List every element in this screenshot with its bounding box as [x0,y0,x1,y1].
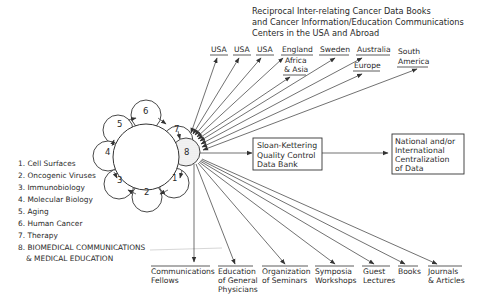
top-targets: USA USA USA England Africa & Asia Sweden… [210,45,429,75]
target-usa-2: USA [234,45,251,54]
petal-label-4: 4 [105,147,110,157]
title-line-1: Reciprocal Inter-relating Cancer Data Bo… [252,6,431,16]
legend-item-7: 7. Therapy [18,231,58,240]
bottom-targets: Communications Fellows Education of Gene… [151,266,465,294]
target-africa-asia-line-1: Africa [285,56,307,65]
target-usa-1: USA [211,45,228,54]
target-education-gp-line-1: Education [218,267,256,276]
target-south-america-line-2: America [398,57,429,66]
target-journals-line-1: Journals [427,267,458,276]
petal-label-5: 5 [117,119,122,129]
petal-label-3: 3 [117,175,122,185]
national-line-1: National and/or [395,137,456,146]
target-guest-lectures-line-1: Guest [363,267,385,276]
sloan-kettering-box: Sloan-Kettering Quality Control Data Ban… [253,138,322,170]
title-line-3: Centers in the USA and Abroad [252,28,379,38]
national-line-4: of Data [395,164,424,173]
legend-item-8-continued: & MEDICAL EDUCATION [26,254,113,263]
petal-label-8: 8 [184,147,189,157]
legend-item-8: 8. BIOMEDICAL COMMUNICATIONS [18,243,146,252]
target-australia: Australia [357,45,391,54]
national-centralization-box: National and/or International Centraliza… [392,134,464,174]
diagram-title: Reciprocal Inter-relating Cancer Data Bo… [252,6,464,38]
national-line-3: Centralization [395,155,449,164]
national-line-2: International [395,146,445,155]
petal-label-1: 1 [172,173,177,183]
target-europe: Europe [354,61,381,70]
legend-item-3: 3. Immunobiology [18,183,85,192]
target-communications-fellows-line-1: Communications [151,267,215,276]
target-england: England [282,45,313,54]
target-africa-asia-line-2: & Asia [284,65,308,74]
target-symposia-line-1: Symposia [315,267,352,276]
center-circle [113,124,179,190]
target-seminars-line-1: Organization [262,267,311,276]
target-education-gp-line-3: Physicians [218,285,258,294]
sloan-line-1: Sloan-Kettering [257,141,317,150]
faint-divider [150,248,222,250]
petal-label-2: 2 [144,187,149,197]
target-usa-3: USA [257,45,274,54]
flow-diagram: Reciprocal Inter-relating Cancer Data Bo… [0,0,485,302]
legend-item-1: 1. Cell Surfaces [18,159,76,168]
research-flower: 7 6 5 4 3 2 1 8 [93,100,200,212]
legend-item-5: 5. Aging [18,207,49,216]
target-symposia-line-2: Workshops [315,276,356,285]
target-south-america-line-1: South [398,47,420,56]
target-education-gp-line-2: of General [218,276,258,285]
target-seminars-line-2: of Seminars [262,276,307,285]
target-books: Books [398,267,421,276]
sloan-line-2: Quality Control [257,151,316,160]
legend-item-6: 6. Human Cancer [18,219,83,228]
target-sweden: Sweden [320,45,350,54]
legend-item-4: 4. Molecular Biology [18,195,94,204]
target-guest-lectures-line-2: Lectures [363,276,395,285]
target-journals-line-2: & Articles [428,276,465,285]
petal-label-6: 6 [143,106,148,116]
title-line-2: and Cancer Information/Education Communi… [252,17,464,27]
target-communications-fellows-line-2: Fellows [151,276,179,285]
legend-item-2: 2. Oncogenic Viruses [18,171,96,180]
sloan-line-3: Data Bank [257,160,298,169]
bottom-arrows [194,159,437,264]
